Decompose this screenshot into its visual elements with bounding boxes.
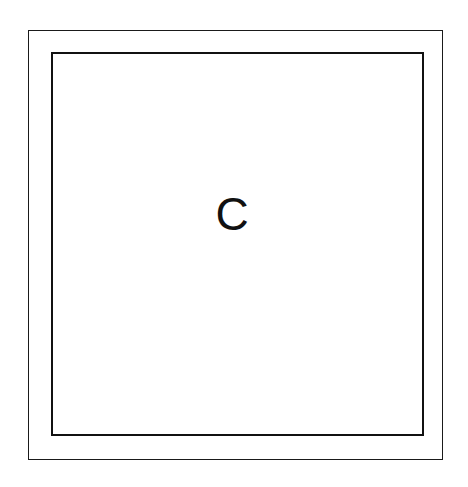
inner-rectangle	[51, 52, 424, 436]
inner-box-label: C	[212, 190, 252, 238]
